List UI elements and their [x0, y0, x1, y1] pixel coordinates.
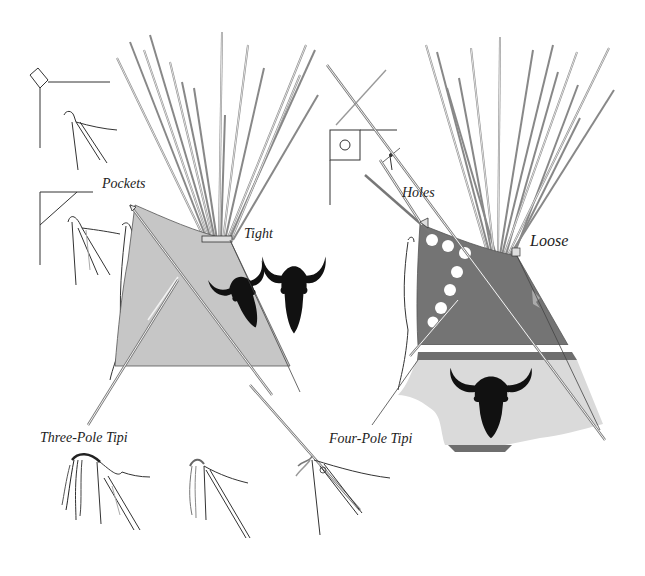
detail-sketch-holes — [330, 130, 400, 205]
four-pole-tipi-cover — [398, 224, 603, 452]
tipi-illustration — [0, 0, 645, 576]
label-loose: Loose — [530, 233, 568, 249]
detail-sketch-pocket-top — [30, 68, 117, 170]
detail-sketch-wrap-dark — [62, 454, 150, 530]
label-four-pole-tipi: Four-Pole Tipi — [329, 432, 412, 446]
four-pole-tipi-back-flap — [398, 237, 414, 390]
label-tight: Tight — [244, 227, 273, 241]
label-pockets: Pockets — [102, 177, 146, 191]
detail-sketch-wrap-light — [190, 460, 250, 538]
label-three-pole-tipi: Three-Pole Tipi — [40, 431, 128, 445]
three-pole-tipi-poles — [117, 32, 318, 240]
buffalo-skull-icon — [262, 257, 326, 334]
four-pole-tipi-poles — [426, 37, 614, 255]
label-holes: Holes — [402, 186, 435, 200]
detail-sketch-pocket-bottom — [40, 192, 120, 285]
detail-sketch-wrap-tied — [296, 456, 390, 535]
